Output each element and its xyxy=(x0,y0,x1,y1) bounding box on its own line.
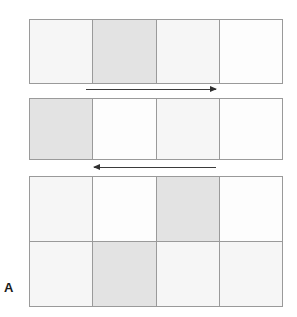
rightward-arrow-icon xyxy=(86,85,216,94)
grid-cell xyxy=(92,177,155,241)
grid-cell xyxy=(156,99,219,159)
grid-cell xyxy=(156,242,219,306)
arrow-shaft xyxy=(86,89,216,90)
leftward-arrow-icon xyxy=(94,163,216,172)
bottom-block-grid xyxy=(29,176,283,307)
grid-cell-shaded xyxy=(30,99,92,159)
diagram-figure: A xyxy=(0,0,297,317)
arrow-head xyxy=(210,86,217,92)
table-row xyxy=(30,20,282,83)
panel-label: A xyxy=(4,280,14,295)
grid-cell-shaded xyxy=(92,242,155,306)
arrow-head xyxy=(93,164,100,170)
middle-strip-grid xyxy=(29,98,283,160)
table-row xyxy=(30,99,282,159)
grid-cell xyxy=(219,242,282,306)
table-row xyxy=(30,241,282,306)
grid-cell xyxy=(156,20,219,83)
top-strip-grid xyxy=(29,19,283,84)
grid-cell-shaded xyxy=(156,177,219,241)
grid-cell xyxy=(30,20,92,83)
grid-cell xyxy=(219,177,282,241)
grid-cell xyxy=(219,99,282,159)
grid-cell xyxy=(30,177,92,241)
grid-cell xyxy=(30,242,92,306)
grid-cell xyxy=(219,20,282,83)
table-row xyxy=(30,177,282,241)
grid-cell xyxy=(92,99,155,159)
arrow-shaft xyxy=(94,167,216,168)
grid-cell-shaded xyxy=(92,20,155,83)
